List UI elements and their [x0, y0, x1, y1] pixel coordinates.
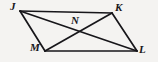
vertex-label-l: L — [139, 44, 146, 55]
parallelogram-diagram-svg — [0, 0, 158, 62]
vertex-label-m: M — [30, 42, 40, 53]
side-kl — [112, 13, 137, 51]
geometry-figure: J K N M L — [0, 0, 158, 62]
vertex-label-j: J — [10, 1, 16, 12]
vertex-label-k: K — [115, 2, 122, 13]
vertex-label-n: N — [71, 15, 79, 26]
side-jk — [20, 11, 112, 13]
